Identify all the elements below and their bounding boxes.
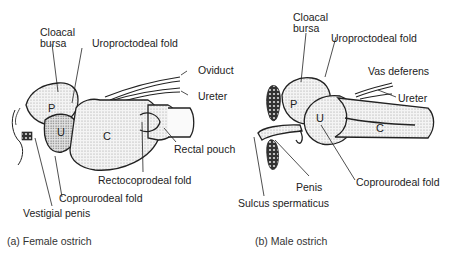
region-u: U [316,112,324,124]
label-cloacal-bursa-line2: bursa [293,23,319,34]
caption-female: (a) Female ostrich [7,235,92,247]
label-uroproctodeal-fold: Uroproctodeal fold [92,38,178,49]
region-u: U [57,126,65,138]
caption-male: (b) Male ostrich [255,235,327,247]
label-rectocoprodeal-fold: Rectocoprodeal fold [98,175,191,186]
label-oviduct: Oviduct [198,65,234,76]
male-ostrich-drawing [254,33,434,196]
label-coprourodeal-fold: Coprourodeal fold [59,193,142,204]
label-uroproctodeal-fold: Uroproctodeal fold [331,33,417,44]
region-p: P [48,102,55,114]
label-rectal-pouch: Rectal pouch [174,144,235,155]
label-vestigial-penis: Vestigial penis [23,208,90,219]
region-c: C [103,130,111,142]
region-p: P [290,98,297,110]
label-sulcus-spermaticus: Sulcus spermaticus [238,198,329,209]
label-coprourodeal-fold: Coprourodeal fold [356,177,439,188]
region-c: C [376,122,384,134]
label-penis: Penis [296,182,322,193]
label-vas-deferens: Vas deferens [368,66,429,77]
label-cloacal-bursa-line2: bursa [40,38,66,49]
label-ureter: Ureter [398,93,427,104]
label-ureter: Ureter [198,91,227,102]
